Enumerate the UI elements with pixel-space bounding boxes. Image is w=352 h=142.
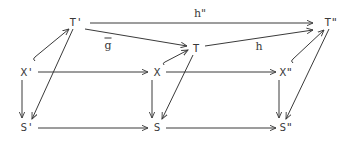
- node-T: T: [193, 43, 200, 54]
- hook-arrow-X-T: [163, 50, 188, 65]
- node-T-prime: T': [69, 17, 82, 28]
- node-S-double-prime: S": [279, 122, 292, 133]
- node-S: S: [154, 122, 161, 133]
- hook-arrow-Xp-Tp: [34, 29, 70, 61]
- edge-label-h-double-prime: h": [194, 8, 206, 19]
- node-X-double-prime: X": [279, 67, 292, 78]
- edge-label-g-bar: g: [104, 40, 111, 51]
- node-X-prime: X': [20, 67, 33, 78]
- edge-label-h: h: [255, 41, 262, 52]
- hook-arrow-Xpp-Tpp: [292, 30, 325, 63]
- arrow-T-S: [162, 55, 193, 119]
- node-S-prime: S': [20, 122, 33, 133]
- node-X: X: [154, 67, 161, 78]
- diagram-arrows: [0, 0, 352, 142]
- arrow-Tp-T: [85, 29, 187, 46]
- node-T-double-prime: T": [324, 17, 337, 28]
